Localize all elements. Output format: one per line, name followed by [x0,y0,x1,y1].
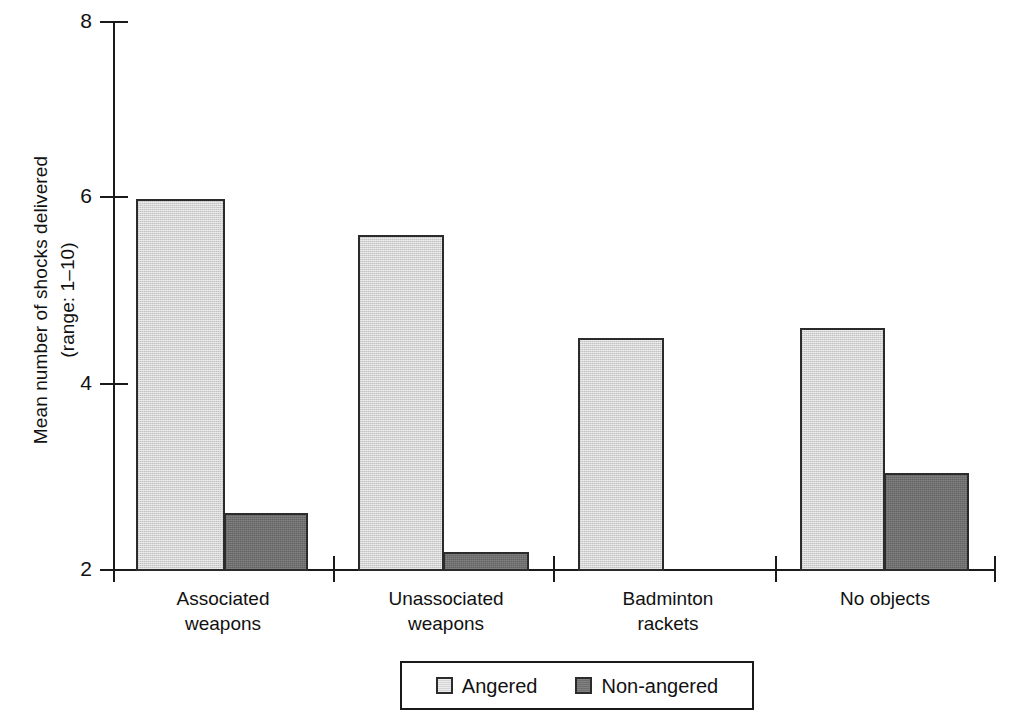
x-category-label-line1: No objects [795,586,975,611]
legend-swatch-nonangered-icon [575,677,592,694]
legend-label-angered: Angered [462,676,538,696]
plot-area [0,0,1011,571]
legend-label-nonangered: Non-angered [601,676,718,696]
bar-angered-badminton-rackets [578,338,664,571]
x-category-label-no-objects: No objects [795,586,975,611]
legend-item-angered: Angered [436,676,538,696]
x-category-label-line2: weapons [353,611,539,636]
legend-item-nonangered: Non-angered [575,676,718,696]
bar-nonangered-associated-weapons [224,513,308,571]
x-category-label-line1: Badminton [573,586,763,611]
x-category-label-associated-weapons: Associated weapons [133,586,313,636]
bar-angered-associated-weapons [136,199,225,571]
legend-swatch-angered-icon [436,677,453,694]
x-category-label-line2: rackets [573,611,763,636]
bar-angered-no-objects [800,328,885,571]
x-category-label-line2: weapons [133,611,313,636]
bar-chart-figure: Mean number of shocks delivered (range: … [0,0,1011,725]
bar-nonangered-unassociated-weapons [443,552,529,571]
x-category-label-badminton-rackets: Badminton rackets [573,586,763,636]
x-category-label-unassociated-weapons: Unassociated weapons [353,586,539,636]
bar-angered-unassociated-weapons [358,235,444,571]
x-category-label-line1: Unassociated [353,586,539,611]
bar-nonangered-no-objects [884,473,969,571]
chart-legend: Angered Non-angered [400,661,754,710]
x-category-label-line1: Associated [133,586,313,611]
